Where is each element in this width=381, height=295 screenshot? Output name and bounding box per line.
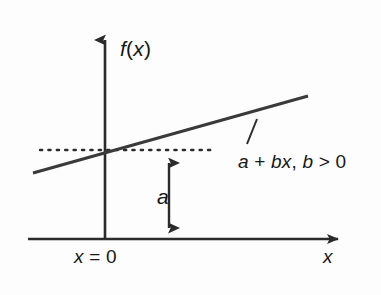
origin-label: x = 0	[74, 247, 117, 266]
equation-label-a: a	[238, 151, 249, 172]
intercept-label: a	[157, 186, 169, 207]
equation-leader-line	[247, 119, 257, 144]
equation-label-ineq: > 0	[313, 151, 346, 172]
equation-label: a + bx, b > 0	[238, 152, 346, 171]
y-axis-label-var: x	[133, 37, 144, 60]
equation-label-comma: ,	[292, 151, 303, 172]
origin-label-var: x	[74, 246, 84, 267]
origin-label-rest: = 0	[84, 246, 117, 267]
figure-canvas: f(x) a x = 0 x a + bx, b > 0	[0, 0, 381, 295]
equation-label-plus: +	[249, 151, 271, 172]
x-axis-label: x	[323, 247, 333, 266]
y-axis-label-close: )	[144, 37, 151, 60]
equation-label-bx: bx	[271, 151, 291, 172]
equation-label-b: b	[302, 151, 313, 172]
y-axis-label: f(x)	[120, 38, 151, 59]
